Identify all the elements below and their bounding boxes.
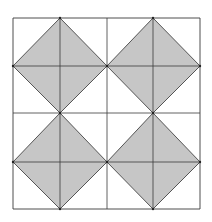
shaded-diamond-4 [107,113,200,209]
vertex-dot [12,161,14,163]
vertex-dot [59,208,61,210]
vertex-dot [59,17,61,19]
vertex-dot [152,208,154,210]
vertex-dot [199,65,201,67]
vertex-dot [106,161,108,163]
quadrant-diamond-diagram [0,0,212,222]
vertex-dot [199,161,201,163]
vertex-dot [152,112,154,114]
vertex-dot [59,112,61,114]
vertex-dot [106,65,108,67]
vertex-dot [12,65,14,67]
vertex-dot [152,17,154,19]
shaded-diamond-2 [107,18,200,113]
shaded-diamonds [13,18,200,209]
